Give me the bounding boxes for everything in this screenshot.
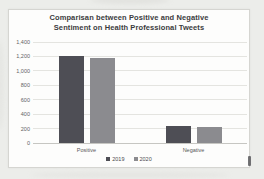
- chart-title-line-2: Sentiment on Health Professional Tweets: [9, 23, 249, 33]
- plot-area: [33, 42, 247, 143]
- chart-title: Comparisan between Positive and Negative…: [9, 13, 249, 32]
- x-tick-label: Negative: [164, 147, 224, 153]
- chart-title-line-1: Comparisan between Positive and Negative: [9, 13, 249, 23]
- bar-negative-2019: [166, 126, 191, 143]
- legend-marker-icon: [106, 157, 110, 161]
- chart-figure: Comparisan between Positive and Negative…: [8, 9, 250, 168]
- bar-positive-2019: [59, 56, 84, 143]
- legend-label: 2020: [140, 156, 152, 162]
- scan-mark: [248, 156, 251, 166]
- legend-label: 2019: [112, 156, 124, 162]
- y-tick-label: 0: [10, 140, 30, 146]
- gridline: [33, 42, 247, 43]
- legend-marker-icon: [134, 157, 138, 161]
- y-tick-label: 400: [10, 111, 30, 117]
- y-tick-label: 1,400: [10, 39, 30, 45]
- scan-smudge: [30, 172, 230, 178]
- scan-smudge: [90, 0, 170, 4]
- x-tick-label: Positive: [57, 147, 117, 153]
- y-tick-label: 800: [10, 82, 30, 88]
- bar-positive-2020: [90, 58, 115, 143]
- legend-item-2020: 2020: [134, 156, 152, 162]
- bar-negative-2020: [197, 127, 222, 143]
- y-tick-label: 1,000: [10, 68, 30, 74]
- chart-legend: 20192020: [9, 156, 249, 162]
- y-tick-label: 600: [10, 97, 30, 103]
- scan-smudge: [0, 40, 4, 130]
- y-tick-label: 1,200: [10, 53, 30, 59]
- legend-item-2019: 2019: [106, 156, 124, 162]
- y-tick-label: 200: [10, 126, 30, 132]
